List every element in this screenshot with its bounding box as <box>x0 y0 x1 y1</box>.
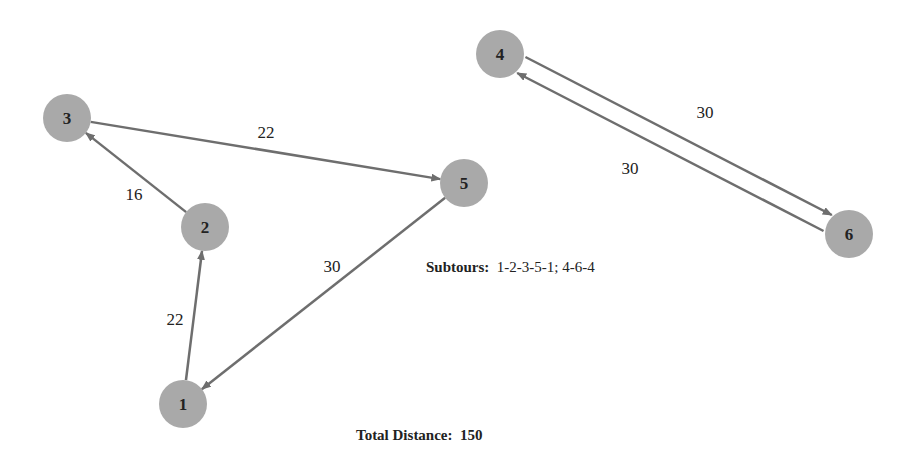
edge-weight-3-5: 22 <box>258 123 275 142</box>
svg-text:2: 2 <box>201 218 210 237</box>
node-2: 2 <box>181 203 229 251</box>
node-3: 3 <box>43 94 91 142</box>
svg-text:6: 6 <box>845 225 854 244</box>
subtours-label: Subtours: <box>426 259 489 275</box>
edge-weight-5-1: 30 <box>324 257 341 276</box>
node-4: 4 <box>476 30 524 78</box>
svg-text:1: 1 <box>179 395 188 414</box>
edge-6-4 <box>517 73 823 231</box>
edge-5-1 <box>202 198 445 389</box>
node-6: 6 <box>825 210 873 258</box>
svg-text:5: 5 <box>460 174 469 193</box>
total-value: 150 <box>460 427 483 443</box>
svg-text:3: 3 <box>63 109 72 128</box>
total-distance: Total Distance: 150 <box>356 427 483 444</box>
edge-4-6 <box>525 57 831 215</box>
subtours-value: 1-2-3-5-1; 4-6-4 <box>497 259 595 275</box>
svg-text:4: 4 <box>496 45 505 64</box>
total-label: Total Distance: <box>356 427 453 443</box>
graph-canvas: 221622303030 123456 <box>0 0 909 457</box>
subtours-text: Subtours: 1-2-3-5-1; 4-6-4 <box>426 259 595 276</box>
edge-weight-2-3: 16 <box>126 185 143 204</box>
edge-weight-6-4: 30 <box>697 103 714 122</box>
edge-weight-4-6: 30 <box>622 159 639 178</box>
edge-1-2 <box>186 251 202 380</box>
node-5: 5 <box>440 159 488 207</box>
edge-weight-1-2: 22 <box>167 310 184 329</box>
node-1: 1 <box>159 380 207 428</box>
